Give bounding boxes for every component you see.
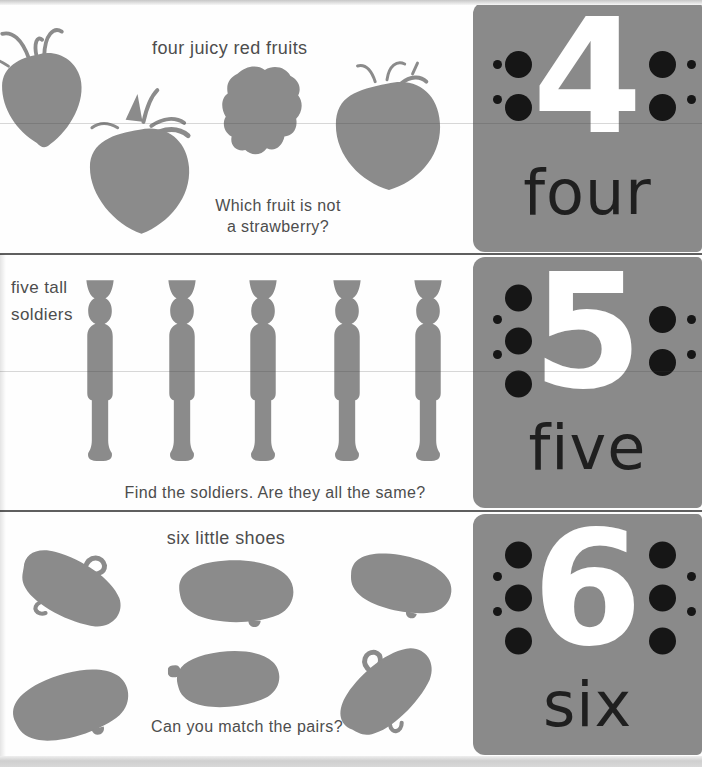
number-tab-4: 4 four [473,2,702,252]
book-page: four juicy red fruits Which fruit is not… [0,0,702,767]
toy-soldier-silhouette [80,274,120,470]
counting-dot [649,94,676,121]
shoe-silhouette [0,513,150,656]
row-five-header: five tall soldiers [11,274,73,328]
number-tab-5: 5 five [473,257,702,508]
counting-dot [649,51,676,78]
scan-line [0,371,702,372]
shoe-silhouette [167,641,287,716]
row-five-question: Find the soldiers. Are they all the same… [125,483,426,504]
row-four-question: Which fruit is not a strawberry? [215,196,340,238]
number-word: five [473,409,702,487]
scan-line [0,123,702,124]
page-edge-top [0,0,702,5]
strawberry-silhouette [82,84,196,238]
counting-dots-right [649,51,676,121]
toy-soldier-silhouette [408,274,448,470]
counting-dots-right [649,306,676,376]
toy-soldier-silhouette [243,274,283,470]
counting-dot [649,542,676,569]
counting-dot [649,306,676,333]
shoe-silhouette [306,612,460,764]
row-four: four juicy red fruits Which fruit is not… [0,0,473,254]
page-separator [0,510,702,512]
row-five: five tall soldiers Find the soldiers. Ar… [0,254,473,510]
page-separator [0,253,702,255]
raspberry-silhouette [216,62,304,160]
edge-dots [687,60,696,104]
page-edge-bottom [0,756,702,767]
shoe-silhouette [0,649,145,760]
counting-dot [649,628,676,655]
number-word: four [473,154,702,232]
edge-dots [687,572,696,616]
toy-soldier-silhouette [327,274,367,470]
counting-dots-right [649,542,676,655]
shoe-silhouette [167,548,303,634]
row-six: six little shoes Can you match the pairs… [0,510,473,767]
page-edge-left [0,254,6,756]
row-six-question: Can you match the pairs? [151,717,343,738]
edge-dots [687,315,696,359]
number-word: six [473,666,702,744]
counting-dot [649,585,676,612]
row-six-header: six little shoes [167,528,285,549]
toy-soldier-silhouette [162,274,202,470]
number-tab-6: 6 six [473,514,702,755]
row-four-header: four juicy red fruits [152,38,307,59]
